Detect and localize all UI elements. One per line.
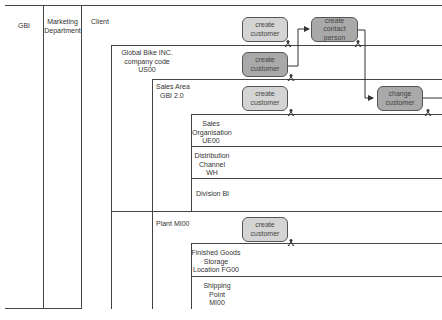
task-text: create [251, 221, 280, 230]
task-text: customer [386, 99, 415, 108]
task-create-customer-plant[interactable]: createcustomer [242, 217, 288, 242]
task-text: create [312, 17, 357, 26]
role-icon [424, 109, 432, 116]
task-text: create [251, 56, 280, 65]
task-text: create [251, 21, 280, 30]
task-create-customer-company-code[interactable]: createcustomer [242, 52, 288, 77]
task-text: change [386, 90, 415, 99]
task-create-contact-person[interactable]: createcontact person [311, 17, 358, 42]
role-icon [284, 40, 292, 47]
task-text: customer [251, 230, 280, 239]
flow-connectors [0, 0, 442, 320]
role-icon [287, 109, 295, 116]
task-text: customer [251, 99, 280, 108]
role-icon [354, 40, 362, 47]
role-icon [287, 239, 295, 246]
task-text: contact person [312, 25, 357, 42]
task-text: create [251, 90, 280, 99]
role-icon [287, 74, 295, 81]
task-change-customer[interactable]: changecustomer [377, 86, 423, 111]
task-text: customer [251, 30, 280, 39]
task-create-customer-sales-area[interactable]: createcustomer [242, 86, 288, 111]
task-text: customer [251, 65, 280, 74]
task-create-customer-client[interactable]: createcustomer [242, 17, 288, 42]
